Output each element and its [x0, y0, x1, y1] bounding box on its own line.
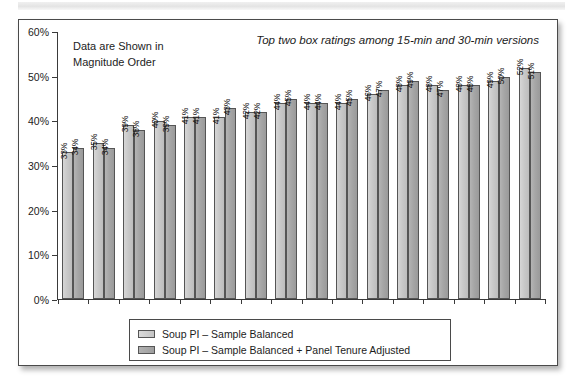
y-axis-tick-label: 50% [28, 71, 49, 83]
bar-series-2: 45% [347, 99, 358, 299]
bar-series-1: 41% [214, 117, 225, 299]
bar-series-2: 38% [134, 130, 145, 299]
bar-value-label: 35% [89, 134, 99, 150]
bar-group: 46%47% [362, 32, 392, 299]
bar-value-label: 44% [313, 94, 323, 110]
x-axis-tick [241, 299, 242, 304]
bar-series-2: 41% [195, 117, 206, 299]
bar-series-1: 40% [154, 121, 165, 299]
bar-series-2: 49% [408, 81, 419, 299]
bar-series-1: 46% [367, 94, 378, 299]
bar-series-1: 41% [184, 117, 195, 299]
bar-series-1: 42% [245, 112, 256, 299]
bar-series-1: 39% [123, 125, 134, 299]
x-axis-tick [423, 299, 424, 304]
bar-value-label: 49% [405, 72, 415, 88]
bar-series-1: 49% [488, 81, 499, 299]
bar-series-1: 48% [397, 85, 408, 299]
bar-series-2: 44% [317, 103, 328, 299]
bar-value-label: 45% [283, 90, 293, 106]
y-axis-tick-label: 20% [28, 205, 49, 217]
legend-item-series-2: Soup PI – Sample Balanced + Panel Tenure… [138, 342, 442, 357]
chart-card: Data are Shown in Magnitude Order Top tw… [18, 19, 558, 366]
plot-area: Data are Shown in Magnitude Order Top tw… [57, 32, 545, 300]
bar-group: 41%43% [210, 32, 240, 299]
bar-value-label: 43% [222, 98, 232, 114]
y-axis-tick [52, 121, 57, 122]
bar-series-1: 44% [336, 103, 347, 299]
legend-swatch-icon-series-1 [138, 330, 155, 338]
bar-value-label: 41% [191, 107, 201, 123]
x-axis-tick [362, 299, 363, 304]
bar-value-label: 42% [241, 103, 251, 119]
bar-group: 49%50% [484, 32, 514, 299]
x-axis-tick [393, 299, 394, 304]
bar-series-1: 35% [93, 143, 104, 299]
x-axis-tick [271, 299, 272, 304]
x-axis-tick [484, 299, 485, 304]
bar-series-2: 48% [469, 85, 480, 299]
y-axis-tick [52, 77, 57, 78]
bar-value-label: 39% [161, 116, 171, 132]
x-axis-tick [302, 299, 303, 304]
y-axis-tick-label: 40% [28, 115, 49, 127]
bar-value-label: 44% [302, 94, 312, 110]
bar-group: 39%38% [119, 32, 149, 299]
bar-series-2: 51% [530, 72, 541, 299]
y-axis-tick-label: 0% [34, 294, 49, 306]
bar-group: 48%47% [423, 32, 453, 299]
bar-value-label: 40% [150, 112, 160, 128]
y-axis-tick [52, 300, 57, 301]
x-axis-tick [515, 299, 516, 304]
bar-value-label: 34% [100, 138, 110, 154]
bar-group: 33%34% [58, 32, 88, 299]
bar-group: 52%51% [515, 32, 545, 299]
bar-series-2: 45% [286, 99, 297, 299]
bar-value-label: 34% [70, 138, 80, 154]
bar-group: 44%45% [332, 32, 362, 299]
x-axis-tick [210, 299, 211, 304]
bar-group: 42%42% [241, 32, 271, 299]
bar-group: 41%41% [180, 32, 210, 299]
bar-group: 48%49% [393, 32, 423, 299]
bar-group: 35%34% [88, 32, 118, 299]
x-axis-tick [119, 299, 120, 304]
bar-value-label: 48% [465, 76, 475, 92]
y-axis-tick-label: 30% [28, 160, 49, 172]
y-axis-tick [52, 32, 57, 33]
x-axis-tick [58, 299, 59, 304]
legend-swatch-icon-series-2 [138, 346, 155, 354]
bar-series-2: 34% [73, 148, 84, 299]
bar-series-1: 44% [306, 103, 317, 299]
bar-value-label: 48% [454, 76, 464, 92]
bar-value-label: 47% [374, 81, 384, 97]
bar-series-2: 47% [378, 90, 389, 299]
bar-value-label: 52% [515, 58, 525, 74]
x-axis-tick [454, 299, 455, 304]
bar-series-2: 47% [438, 90, 449, 299]
bar-value-label: 41% [180, 107, 190, 123]
x-axis-tick [332, 299, 333, 304]
y-axis-tick-label: 60% [28, 26, 49, 38]
bar-value-label: 44% [272, 94, 282, 110]
bar-series-1: 48% [458, 85, 469, 299]
bar-series-1: 52% [519, 68, 530, 299]
legend-item-series-1: Soup PI – Sample Balanced [138, 326, 442, 341]
bar-group: 44%45% [271, 32, 301, 299]
bar-group: 44%44% [302, 32, 332, 299]
bar-value-label: 47% [435, 81, 445, 97]
x-axis-tick [545, 299, 546, 304]
y-axis-tick [52, 211, 57, 212]
scan-artifact-band [18, 2, 565, 10]
bar-series-2: 43% [225, 108, 236, 299]
bar-group: 48%48% [454, 32, 484, 299]
bar-value-label: 42% [252, 103, 262, 119]
x-axis-tick [180, 299, 181, 304]
bar-value-label: 38% [131, 121, 141, 137]
y-axis-tick [52, 255, 57, 256]
y-axis-tick [52, 166, 57, 167]
legend-label-series-2: Soup PI – Sample Balanced + Panel Tenure… [162, 344, 410, 356]
bar-value-label: 46% [363, 85, 373, 101]
bar-series-container: 33%34%35%34%39%38%40%39%41%41%41%43%42%4… [58, 32, 545, 299]
bar-series-1: 44% [275, 103, 286, 299]
